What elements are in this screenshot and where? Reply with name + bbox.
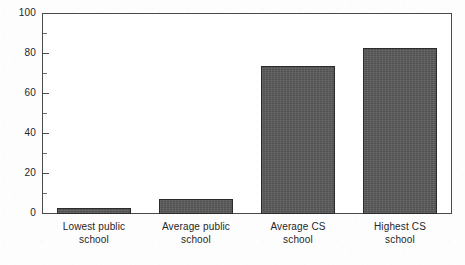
bar	[363, 48, 438, 214]
bar-series	[43, 14, 451, 214]
x-axis-category-label-line: Highest CS	[349, 220, 451, 233]
x-axis-category-label-line: Lowest public	[43, 220, 145, 233]
y-axis-tick-label: 0	[2, 208, 36, 218]
x-axis-category-label-line: school	[349, 233, 451, 246]
x-axis-category-label: Lowest publicschool	[43, 220, 145, 246]
y-axis-tick-labels: 020406080100	[0, 0, 36, 265]
x-axis-category-label-line: Average CS	[247, 220, 349, 233]
x-axis-category-label: Average publicschool	[145, 220, 247, 246]
x-axis-category-label-line: school	[145, 233, 247, 246]
x-axis-category-labels: Lowest publicschoolAverage publicschoolA…	[43, 220, 451, 262]
x-axis-category-label-line: school	[43, 233, 145, 246]
bar	[57, 208, 132, 214]
x-axis-category-label-line: school	[247, 233, 349, 246]
bar	[261, 66, 336, 214]
bar-chart: 020406080100 Lowest publicschoolAverage …	[0, 0, 465, 265]
y-axis-tick-label: 60	[2, 88, 36, 98]
x-axis-category-label: Average CSschool	[247, 220, 349, 246]
bar	[159, 199, 234, 214]
x-axis-category-label-line: Average public	[145, 220, 247, 233]
x-axis-category-label: Highest CSschool	[349, 220, 451, 246]
y-axis-tick-label: 40	[2, 128, 36, 138]
y-axis-tick-label: 80	[2, 48, 36, 58]
y-axis-tick-label: 100	[2, 8, 36, 18]
y-axis-tick-label: 20	[2, 168, 36, 178]
